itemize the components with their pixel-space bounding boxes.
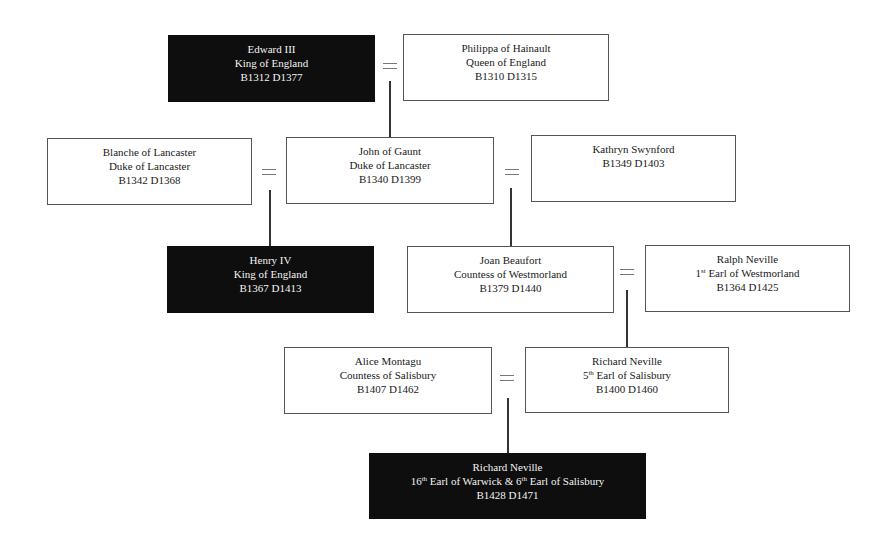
descent-line [269, 190, 271, 246]
person-henry-iv: Henry IV King of England B1367 D1413 [167, 246, 374, 313]
person-edward-iii: Edward III King of England B1312 D1377 [168, 35, 375, 102]
person-dates: B1349 D1403 [532, 156, 735, 170]
person-title: Duke of Lancaster [287, 158, 493, 172]
person-title: 16th Earl of Warwick & 6th Earl of Salis… [370, 474, 645, 488]
marriage-symbol [383, 63, 397, 69]
descent-line [507, 398, 509, 453]
person-title: King of England [168, 267, 373, 281]
person-blanche: Blanche of Lancaster Duke of Lancaster B… [47, 138, 252, 205]
descent-line [389, 81, 391, 137]
person-name: Kathryn Swynford [532, 142, 735, 156]
person-alice-montagu: Alice Montagu Countess of Salisbury B140… [284, 347, 492, 414]
person-richard-neville-5th: Richard Neville 5th Earl of Salisbury B1… [525, 347, 729, 413]
person-title: Duke of Lancaster [48, 159, 251, 173]
title-rest: Earl of Salisbury [594, 369, 671, 381]
person-name: Blanche of Lancaster [48, 145, 251, 159]
person-title: Countess of Salisbury [285, 368, 491, 382]
descent-line [510, 188, 512, 246]
title-part: Earl of Warwick & 6 [427, 475, 522, 487]
person-name: Philippa of Hainault [404, 41, 608, 55]
person-name: Ralph Neville [646, 252, 849, 266]
person-joan-beaufort: Joan Beaufort Countess of Westmorland B1… [407, 246, 614, 313]
title-part: Earl of Salisbury [527, 475, 604, 487]
person-name: Edward III [169, 42, 374, 56]
person-name: John of Gaunt [287, 144, 493, 158]
person-dates: B1407 D1462 [285, 382, 491, 396]
descent-line [626, 290, 628, 348]
person-dates: B1428 D1471 [370, 488, 645, 502]
person-name: Joan Beaufort [408, 253, 613, 267]
person-john-of-gaunt: John of Gaunt Duke of Lancaster B1340 D1… [286, 137, 494, 204]
person-title: Countess of Westmorland [408, 267, 613, 281]
marriage-symbol [620, 269, 634, 275]
person-dates: B1340 D1399 [287, 172, 493, 186]
person-name: Richard Neville [526, 354, 728, 368]
title-rest: Earl of Westmorland [706, 267, 800, 279]
person-name: Henry IV [168, 253, 373, 267]
marriage-symbol [262, 169, 276, 175]
person-name: Alice Montagu [285, 354, 491, 368]
person-title: 1st Earl of Westmorland [646, 266, 849, 280]
person-title: Queen of England [404, 55, 608, 69]
person-title: 5th Earl of Salisbury [526, 368, 728, 382]
person-name: Richard Neville [370, 460, 645, 474]
person-ralph-neville: Ralph Neville 1st Earl of Westmorland B1… [645, 245, 850, 312]
person-dates: B1400 D1460 [526, 382, 728, 396]
title-part: 16 [411, 475, 422, 487]
person-dates: B1342 D1368 [48, 173, 251, 187]
marriage-symbol [500, 375, 514, 381]
marriage-symbol [505, 169, 519, 175]
person-title: King of England [169, 56, 374, 70]
person-kathryn: Kathryn Swynford B1349 D1403 [531, 135, 736, 202]
person-dates: B1364 D1425 [646, 280, 849, 294]
person-dates: B1367 D1413 [168, 281, 373, 295]
person-dates: B1310 D1315 [404, 69, 608, 83]
person-philippa: Philippa of Hainault Queen of England B1… [403, 34, 609, 101]
person-dates: B1312 D1377 [169, 70, 374, 84]
person-dates: B1379 D1440 [408, 281, 613, 295]
person-richard-neville-16th: Richard Neville 16th Earl of Warwick & 6… [369, 453, 646, 519]
